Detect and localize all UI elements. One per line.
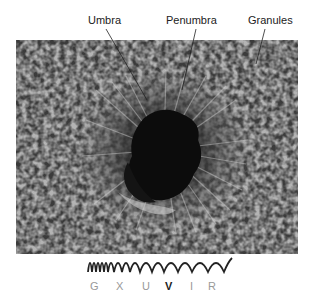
band-v-active: V bbox=[165, 280, 172, 292]
penumbra-leader bbox=[182, 29, 196, 90]
band-x: X bbox=[116, 280, 123, 292]
granules-leader bbox=[256, 29, 265, 64]
band-i: I bbox=[190, 280, 193, 292]
band-r: R bbox=[208, 280, 216, 292]
band-g: G bbox=[90, 280, 99, 292]
penumbra-label: Penumbra bbox=[166, 14, 217, 26]
granules-label: Granules bbox=[248, 14, 293, 26]
umbra-leader bbox=[106, 29, 147, 100]
umbra-label: Umbra bbox=[88, 14, 121, 26]
spectrum-wave-icon bbox=[86, 252, 236, 278]
band-u: U bbox=[142, 280, 150, 292]
